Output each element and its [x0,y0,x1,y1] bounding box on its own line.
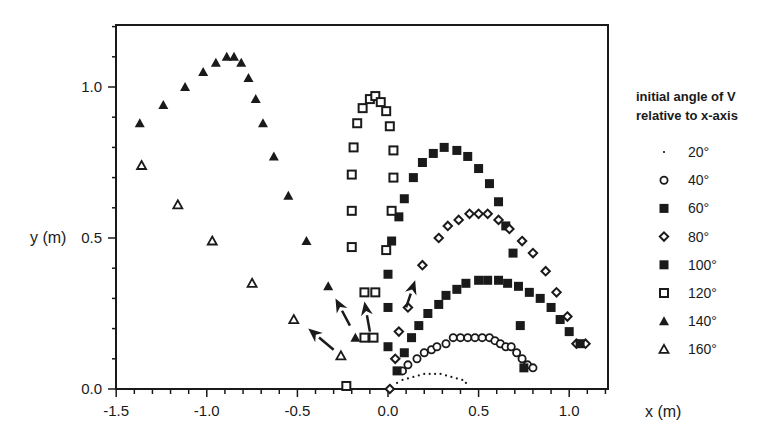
data-point [407,377,409,379]
legend-label: 160° [688,341,717,357]
legend-marker-icon [660,260,669,269]
data-point [350,333,360,342]
legend-label: 60° [688,200,709,216]
data-point [384,303,393,312]
data-point [519,363,528,372]
data-point [418,261,426,269]
x-tick-label: -1.5 [103,402,129,419]
data-point [414,321,423,330]
data-point [251,94,261,103]
x-tick-label: 1.0 [559,402,580,419]
data-point [518,355,525,362]
data-point [552,288,560,296]
series-80deg [386,210,590,394]
arrow-head-icon [405,280,416,295]
axis-tick-labels: -1.5-1.0-0.50.00.51.00.00.51.0 [81,78,579,419]
data-point [483,210,491,218]
data-point [494,276,503,285]
legend-item: 140° [659,313,717,329]
data-point [465,210,473,218]
data-point [464,334,471,341]
data-point [377,98,385,106]
data-point [393,366,402,375]
legend-items: 20°40°60°80°100°120°140°160° [659,144,717,357]
trajectory-chart: -1.5-1.0-0.50.00.51.00.00.51.0 y (m) x (… [0,0,769,448]
legend-marker-icon [659,316,669,325]
data-point [456,377,458,379]
data-point [370,334,378,342]
legend-label: 140° [688,313,717,329]
data-point [269,151,279,160]
data-point [556,315,565,324]
data-point [283,191,293,200]
data-point [445,374,447,376]
arrow-head-icon [361,301,373,316]
data-point [429,373,431,375]
legend-title-line-2: relative to x-axis [636,108,738,123]
data-point [423,373,425,375]
data-point [360,288,368,296]
data-point [409,173,418,182]
data-point [439,373,441,375]
y-axis-label: y (m) [30,229,66,246]
legend-item: 100° [660,257,717,273]
x-tick-label: 0.0 [378,402,399,419]
data-point [353,119,361,127]
legend-item: 20° [663,144,709,160]
data-point [514,282,523,291]
data-point [386,122,394,130]
data-point [400,194,409,203]
data-point [576,339,585,348]
data-point [198,67,208,76]
legend-label: 80° [688,229,709,245]
data-point [433,343,440,350]
data-point [508,343,515,350]
y-tick-label: 1.0 [81,78,102,95]
data-point [485,179,494,188]
data-point [135,118,145,127]
data-point [389,174,397,182]
data-point [342,382,350,390]
legend: initial angle of V relative to x-axis 20… [636,89,738,357]
data-point [400,348,409,357]
legend-label: 100° [688,257,717,273]
data-point [450,334,457,341]
data-point [407,333,416,342]
data-point [323,281,333,290]
x-tick-label: 0.5 [468,402,489,419]
data-point [461,279,470,288]
data-point [429,149,438,158]
data-point [525,288,534,297]
data-point [418,158,427,167]
data-point [243,73,253,82]
data-point [359,104,367,112]
legend-marker-icon [660,204,669,213]
data-point [382,107,390,115]
data-point [474,164,483,173]
data-point [503,279,512,288]
data-point [457,334,464,341]
data-point [348,171,356,179]
data-point [465,382,467,384]
data-point [518,237,526,245]
data-point [547,303,556,312]
data-point [401,379,403,381]
data-point [421,349,428,356]
data-point [413,355,420,362]
legend-title-line-1: initial angle of V [636,89,736,104]
data-point [483,276,492,285]
data-point [452,146,461,155]
data-point [474,210,482,218]
series-40deg [399,334,537,374]
legend-item: 60° [660,200,710,216]
data-point [441,291,450,300]
data-point [412,376,414,378]
data-point [137,161,146,169]
data-point [494,197,503,206]
legend-label: 20° [688,144,709,160]
data-point [336,351,345,359]
series-20deg [396,373,467,384]
data-point [516,321,525,330]
data-point [173,200,182,208]
data-point [386,385,394,393]
